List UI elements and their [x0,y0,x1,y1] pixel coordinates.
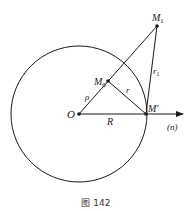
point-M0 [106,79,110,83]
figure-caption: 图 142 [81,198,110,208]
figure-142-diagram: O M0 M1 M′ ρ r r1 R (n) 图 142 [0,0,192,211]
label-rho: ρ [84,92,90,102]
label-r: r [126,85,130,95]
label-M1: M1 [151,12,164,25]
point-O [77,112,81,116]
label-r1: r1 [153,66,160,77]
label-M0: M0 [93,76,106,89]
label-Mprime: M′ [147,103,159,114]
point-M1 [155,24,159,28]
label-n: (n) [167,122,178,132]
label-R: R [106,116,113,127]
label-O: O [67,108,75,120]
